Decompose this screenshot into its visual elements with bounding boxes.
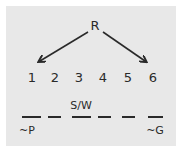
position-6: 6 <box>149 71 157 84</box>
slot-6-blank <box>148 116 163 118</box>
position-1: 1 <box>28 71 36 84</box>
slot-3-annotation: S/W <box>70 100 92 111</box>
slot-6-annotation: ~G <box>146 125 164 136</box>
slot-5-blank <box>122 116 135 118</box>
slot-3-blank <box>72 116 91 118</box>
position-2: 2 <box>51 71 59 84</box>
root-label: R <box>90 19 99 32</box>
slot-1-annotation: ~P <box>19 125 35 136</box>
slot-2-blank <box>48 116 61 118</box>
slot-4-blank <box>98 116 111 118</box>
right-arrow-icon <box>103 32 145 61</box>
position-3: 3 <box>75 71 83 84</box>
position-5: 5 <box>124 71 132 84</box>
position-4: 4 <box>99 71 107 84</box>
left-arrow-icon <box>40 32 88 61</box>
slot-1-blank <box>22 116 41 118</box>
